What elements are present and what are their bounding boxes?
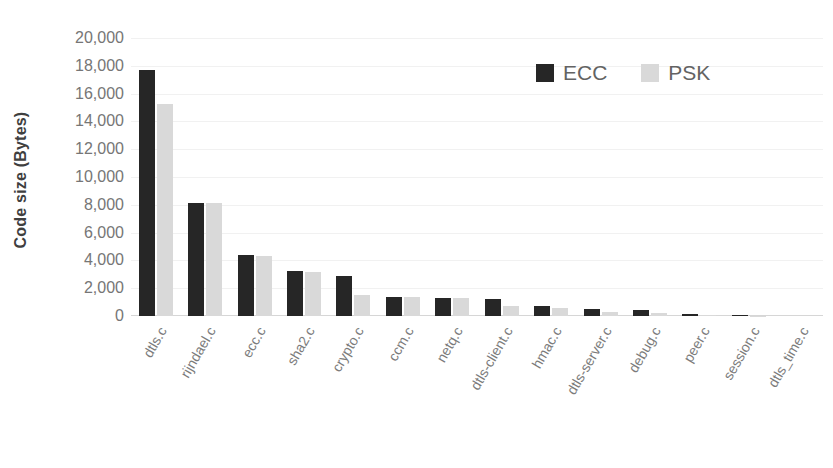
legend-item-psk[interactable]: PSK [641, 62, 710, 83]
x-axis-tick-label: peer.c [680, 324, 713, 365]
y-axis-tick-label: 4,000 [84, 251, 124, 269]
y-axis-title: Code size (Bytes) [6, 60, 36, 300]
bar-psk[interactable] [651, 313, 667, 316]
x-axis-tick-label: sha2.c [283, 324, 317, 368]
bar-psk[interactable] [503, 306, 519, 316]
legend-swatch-icon [536, 64, 554, 82]
y-axis-tick-labels: 20,00018,00016,00014,00012,00010,0008,00… [40, 30, 128, 316]
x-axis-tick-label: ccm.c [385, 324, 417, 364]
y-axis-tick-label: 12,000 [75, 140, 124, 158]
x-axis-tick-cell: rijndael.c [180, 320, 229, 465]
bar-ecc[interactable] [336, 276, 352, 316]
bar-ecc[interactable] [534, 306, 550, 316]
legend-item-ecc[interactable]: ECC [536, 62, 607, 83]
bar-psk[interactable] [700, 315, 716, 316]
x-axis-tick-label: debug.c [625, 324, 664, 375]
legend-label: PSK [668, 62, 710, 83]
x-axis-tick-cell: dtls-server.c [576, 320, 625, 465]
bar-group [773, 38, 822, 316]
bar-psk[interactable] [305, 272, 321, 316]
y-axis-tick-label: 0 [115, 307, 124, 325]
x-axis-tick-cell: crypto.c [329, 320, 378, 465]
bar-group [329, 38, 378, 316]
chart-legend: ECCPSK [536, 62, 710, 83]
x-axis-tick-cell: dtls-client.c [477, 320, 526, 465]
y-axis-tick-label: 14,000 [75, 112, 124, 130]
x-axis-tick-label: dtls.c [139, 324, 169, 360]
bar-ecc[interactable] [238, 255, 254, 316]
bar-group [230, 38, 279, 316]
bar-ecc[interactable] [584, 309, 600, 316]
x-axis-tick-cell: dtls_time.c [773, 320, 822, 465]
x-axis-tick-cell: sha2.c [279, 320, 328, 465]
x-axis-tick-cell: dtls.c [131, 320, 180, 465]
y-axis-tick-label: 6,000 [84, 224, 124, 242]
bar-psk[interactable] [256, 256, 272, 316]
x-axis-tick-label: session.c [720, 324, 763, 383]
bar-psk[interactable] [354, 295, 370, 316]
bar-group [477, 38, 526, 316]
bar-ecc[interactable] [435, 298, 451, 316]
x-axis-tick-label: netq.c [433, 324, 466, 365]
legend-label: ECC [563, 62, 607, 83]
bar-ecc[interactable] [287, 271, 303, 316]
bar-psk[interactable] [404, 297, 420, 316]
bar-psk[interactable] [602, 312, 618, 316]
x-axis-tick-cell: session.c [724, 320, 773, 465]
bar-psk[interactable] [453, 298, 469, 316]
bar-group [378, 38, 427, 316]
y-axis-tick-label: 16,000 [75, 85, 124, 103]
y-axis-tick-label: 20,000 [75, 29, 124, 47]
x-axis-tick-label: rijndael.c [177, 324, 219, 381]
bar-ecc[interactable] [386, 297, 402, 316]
x-axis-tick-cell: ccm.c [378, 320, 427, 465]
bar-chart: Code size (Bytes) 20,00018,00016,00014,0… [0, 0, 833, 468]
y-axis-tick-label: 2,000 [84, 279, 124, 297]
bar-group [724, 38, 773, 316]
bar-psk[interactable] [206, 203, 222, 316]
bar-ecc[interactable] [732, 315, 748, 316]
legend-swatch-icon [641, 64, 659, 82]
bar-group [279, 38, 328, 316]
bar-psk[interactable] [157, 104, 173, 316]
x-axis-tick-label: hmac.c [529, 324, 565, 371]
bar-psk[interactable] [552, 308, 568, 316]
bar-ecc[interactable] [188, 203, 204, 316]
y-axis-tick-label: 8,000 [84, 196, 124, 214]
bar-groups [131, 38, 823, 316]
y-axis-tick-label: 18,000 [75, 57, 124, 75]
plot-area [131, 38, 823, 316]
x-axis-tick-label: ecc.c [238, 324, 268, 360]
bar-ecc[interactable] [682, 314, 698, 316]
x-axis-tick-cell: ecc.c [230, 320, 279, 465]
x-axis-tick-cell: peer.c [675, 320, 724, 465]
bar-group [428, 38, 477, 316]
x-axis-tick-cell: netq.c [428, 320, 477, 465]
bar-group [131, 38, 180, 316]
bar-ecc[interactable] [485, 299, 501, 316]
x-axis-tick-label: crypto.c [329, 324, 367, 374]
bar-group [180, 38, 229, 316]
bar-ecc[interactable] [633, 310, 649, 316]
x-axis-tick-cell: debug.c [625, 320, 674, 465]
x-axis-tick-labels: dtls.crijndael.cecc.csha2.ccrypto.cccm.c… [131, 320, 823, 465]
bar-ecc[interactable] [139, 70, 155, 316]
y-axis-tick-label: 10,000 [75, 168, 124, 186]
